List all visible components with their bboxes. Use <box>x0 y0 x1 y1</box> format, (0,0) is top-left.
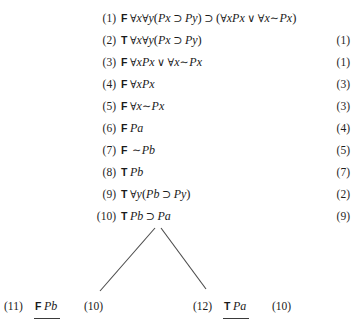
line-number: (6) <box>60 118 116 139</box>
sign-marker-false: F <box>121 12 130 24</box>
branch-line-right <box>161 228 206 289</box>
leaf-formula: FPb <box>34 295 60 319</box>
proof-line: (5) F∀x∼Px (3) <box>0 96 358 117</box>
leaf-justification: (10) <box>84 295 103 317</box>
line-formula: T∀y(Pb⊃Py) <box>121 184 190 205</box>
line-justification: (2) <box>292 184 350 205</box>
line-number: (7) <box>60 140 116 161</box>
sign-marker-false: F <box>121 144 130 156</box>
line-formula: F∀xPx <box>121 74 155 95</box>
line-justification: (9) <box>292 206 350 227</box>
proof-line: (1) F∀x∀y(Px⊃Py)⊃(∀xPx∨∀x∼Px) <box>0 8 358 29</box>
proof-line: (2) T∀x∀y(Px⊃Py) (1) <box>0 30 358 51</box>
sign-marker-false: F <box>121 56 130 68</box>
proof-root: (1) F∀x∀y(Px⊃Py)⊃(∀xPx∨∀x∼Px) (2) T∀x∀y(… <box>0 0 358 332</box>
leaf-justification: (10) <box>272 295 291 317</box>
line-justification: (3) <box>292 74 350 95</box>
line-number: (1) <box>60 8 116 29</box>
sign-marker-false: F <box>121 122 130 134</box>
line-formula: F∀xPx∨∀x∼Px <box>121 52 202 73</box>
proof-line: (6) FPa (4) <box>0 118 358 139</box>
proof-line: (7) F∼Pb (5) <box>0 140 358 161</box>
line-formula: F∼Pb <box>121 140 155 161</box>
sign-marker-false: F <box>121 100 130 112</box>
line-formula: FPa <box>121 118 143 139</box>
proof-line: (8) TPb (7) <box>0 162 358 183</box>
proof-line: (9) T∀y(Pb⊃Py) (2) <box>0 184 358 205</box>
leaf-number: (12) <box>193 295 212 317</box>
line-justification: (4) <box>292 118 350 139</box>
line-formula: TPb⊃Pa <box>121 206 171 227</box>
sign-marker-false: F <box>121 78 130 90</box>
line-justification: (3) <box>292 96 350 117</box>
line-number: (4) <box>60 74 116 95</box>
line-formula: F∀x∀y(Px⊃Py)⊃(∀xPx∨∀x∼Px) <box>121 8 296 29</box>
branch-line-left <box>100 228 155 291</box>
line-number: (2) <box>60 30 116 51</box>
line-justification: (1) <box>292 52 350 73</box>
proof-line: (3) F∀xPx∨∀x∼Px (1) <box>0 52 358 73</box>
leaf-number: (11) <box>4 295 23 317</box>
line-justification: (5) <box>292 140 350 161</box>
line-number: (9) <box>60 184 116 205</box>
sign-marker-true: T <box>121 188 130 200</box>
proof-line: (4) F∀xPx (3) <box>0 74 358 95</box>
line-formula: F∀x∼Px <box>121 96 164 117</box>
line-justification: (1) <box>292 30 350 51</box>
sign-marker-true: T <box>121 210 130 222</box>
proof-line: (10) TPb⊃Pa (9) <box>0 206 358 227</box>
sign-marker-true: T <box>121 34 130 46</box>
line-formula: T∀x∀y(Px⊃Py) <box>121 30 202 51</box>
line-number: (10) <box>60 206 116 227</box>
sign-marker-true: T <box>224 300 233 312</box>
line-number: (8) <box>60 162 116 183</box>
line-justification: (7) <box>292 162 350 183</box>
line-formula: TPb <box>121 162 143 183</box>
line-number: (5) <box>60 96 116 117</box>
leaf-formula: TPa <box>223 295 249 319</box>
sign-marker-false: F <box>35 300 44 312</box>
sign-marker-true: T <box>121 166 130 178</box>
line-number: (3) <box>60 52 116 73</box>
